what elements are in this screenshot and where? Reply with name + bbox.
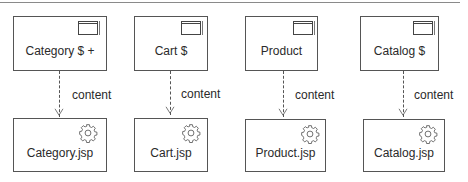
gear-icon xyxy=(78,123,98,143)
window-icon xyxy=(78,21,98,35)
gear-icon xyxy=(300,124,320,144)
node-label: Product xyxy=(246,44,317,58)
node-cart[interactable]: Cart $ xyxy=(134,16,208,71)
open-arrowhead-icon xyxy=(277,108,289,116)
node-catalog[interactable]: Catalog $ xyxy=(360,16,439,71)
connector-label: content xyxy=(414,88,453,102)
connector-label: content xyxy=(181,87,220,101)
gear-icon xyxy=(181,123,201,143)
node-cart-jsp[interactable]: Cart.jsp xyxy=(134,118,208,172)
window-icon xyxy=(181,21,201,35)
node-label: Category $ + xyxy=(14,44,106,58)
node-label: Product.jsp xyxy=(246,146,325,160)
open-arrowhead-icon xyxy=(53,108,65,116)
node-label: Cart.jsp xyxy=(135,146,207,160)
connector-label: content xyxy=(72,88,111,102)
open-arrowhead-icon xyxy=(164,106,176,114)
node-label: Catalog $ xyxy=(361,44,438,58)
node-product-jsp[interactable]: Product.jsp xyxy=(245,119,326,172)
node-label: Category.jsp xyxy=(14,146,106,160)
connector-label: content xyxy=(295,88,334,102)
window-icon xyxy=(293,21,313,35)
node-category[interactable]: Category $ + xyxy=(13,16,107,71)
node-category-jsp[interactable]: Category.jsp xyxy=(13,118,107,172)
top-border-line xyxy=(0,2,460,3)
node-label: Cart $ xyxy=(135,44,207,58)
gear-icon xyxy=(418,124,438,144)
open-arrowhead-icon xyxy=(397,108,409,116)
window-icon xyxy=(413,21,433,35)
node-label: Catalog.jsp xyxy=(364,146,444,160)
node-product[interactable]: Product xyxy=(245,16,318,71)
node-catalog-jsp[interactable]: Catalog.jsp xyxy=(363,119,445,172)
